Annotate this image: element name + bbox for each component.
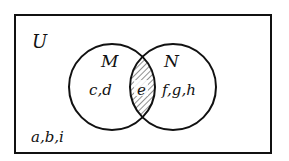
outside-elements: a,b,i [31,128,64,146]
set-m-label: M [100,51,119,71]
set-n-label: N [163,51,180,71]
intersection-elements: e [137,81,146,99]
set-m-elements: c,d [89,81,112,99]
set-n-elements: f,g,h [161,81,196,99]
venn-diagram: U M N c,d e f,g,h a,b,i [0,0,289,161]
universe-label: U [32,31,48,52]
